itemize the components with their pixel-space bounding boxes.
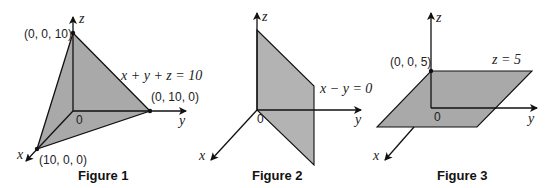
origin-label: 0 <box>434 110 441 124</box>
x-axis <box>211 110 257 160</box>
origin-label: 0 <box>257 112 264 126</box>
x-axis-label: x <box>198 148 206 163</box>
point-marker <box>429 69 433 73</box>
origin-label: 0 <box>76 113 83 127</box>
figure-caption: Figure 3 <box>437 168 488 183</box>
point-marker <box>35 147 39 151</box>
z-axis-label: z <box>261 9 268 24</box>
point-marker <box>148 109 152 113</box>
z-axis-label: z <box>435 10 442 25</box>
plane-x-minus-y <box>257 30 314 165</box>
y-axis-label: y <box>177 113 186 128</box>
y-axis-label: y <box>353 112 362 127</box>
equation-label: x − y = 0 <box>319 81 372 96</box>
equation-label: x + y + z = 10 <box>120 68 202 83</box>
plane-z-equals-5 <box>377 71 532 127</box>
figure-caption: Figure 1 <box>78 168 129 183</box>
figures-canvas: z y x 0 (0, 0, 10) (0, 10, 0) (10, 0, 0)… <box>0 0 554 188</box>
figure-caption: Figure 2 <box>252 168 303 183</box>
point-label: (0, 0, 5) <box>390 55 431 69</box>
point-label: (10, 0, 0) <box>39 153 87 167</box>
x-axis-label: x <box>372 148 380 163</box>
point-label: (0, 10, 0) <box>151 90 199 104</box>
figure-1: z y x 0 (0, 0, 10) (0, 10, 0) (10, 0, 0)… <box>16 11 202 183</box>
y-axis-label: y <box>526 111 535 126</box>
figure-3: z y x 0 (0, 0, 5) z = 5 Figure 3 <box>372 10 537 183</box>
z-axis-label: z <box>78 11 85 26</box>
point-label: (0, 0, 10) <box>24 27 72 41</box>
x-axis <box>385 127 414 160</box>
equation-label: z = 5 <box>491 52 521 67</box>
x-axis-label: x <box>16 147 24 162</box>
figure-2: z y x 0 x − y = 0 Figure 2 <box>198 9 372 183</box>
